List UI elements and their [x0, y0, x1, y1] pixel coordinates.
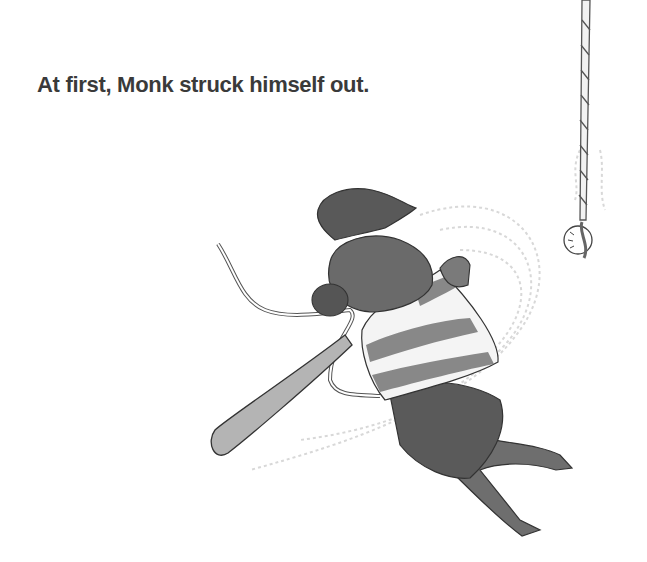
baseball-cap — [317, 189, 416, 240]
baseball-on-rope — [564, 222, 592, 258]
baseball-bat — [211, 335, 352, 455]
rope — [579, 0, 590, 220]
illustration-mouse-batter — [0, 0, 647, 562]
storybook-page: At first, Monk struck himself out. — [0, 0, 647, 562]
mouse-ear — [312, 284, 348, 316]
